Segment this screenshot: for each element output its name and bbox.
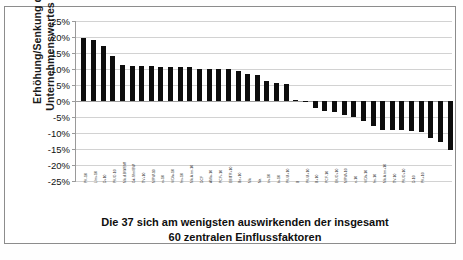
bar: [399, 101, 404, 130]
bar: [110, 56, 115, 101]
bar: [216, 69, 221, 101]
bar: [371, 101, 376, 126]
bar: [293, 100, 298, 101]
x-axis-tick-label: PK/U+10: [286, 169, 290, 183]
bar: [361, 101, 366, 121]
bar: [178, 67, 183, 101]
bar: [187, 67, 192, 101]
bar: [264, 81, 269, 101]
x-axis-tick-label: EBITR+10: [229, 166, 233, 183]
bar: [245, 74, 250, 101]
x-axis-tick-label: PCF-10: [325, 171, 329, 183]
bar: [168, 67, 173, 101]
x-axis-tick-label: tv+10: [267, 174, 271, 183]
x-axis-tick-label: Mk.A.tm+10: [383, 164, 387, 183]
x-axis-tick-label: D-10: [412, 175, 416, 183]
bar: [303, 101, 308, 102]
y-axis-tick-label: -25%: [48, 176, 70, 187]
bar: [409, 101, 414, 131]
x-axis-tick-label: Mk.d.BW/BW: [123, 162, 127, 183]
bar: [149, 66, 154, 101]
x-axis-tick-label: Na: [258, 178, 262, 183]
bar: [255, 75, 260, 101]
x-axis-tick-label: MRW+10: [344, 168, 348, 183]
y-axis-tick-label: 0%: [56, 96, 70, 107]
bar: [158, 67, 163, 101]
x-axis-tick-label: Gk-Sfm/BW: [132, 164, 136, 183]
x-axis-title-line-2: 60 zentralen Einflussfaktoren: [45, 230, 445, 245]
x-axis-tick-label: V/Dh-10: [364, 170, 368, 183]
bar: [81, 38, 86, 101]
bar: [197, 69, 202, 101]
y-axis-tick-label: 15%: [51, 48, 70, 59]
y-axis-tick-label: -20%: [48, 160, 70, 171]
y-axis-tickmark: [72, 181, 76, 182]
y-axis-tick-label: -5%: [53, 112, 70, 123]
bar: [419, 101, 424, 132]
chart-screenshot: Erhöhung/Senkung des Unternehmenswertes …: [0, 0, 463, 260]
y-axis-tick-label: -10%: [48, 128, 70, 139]
bar: [226, 69, 231, 101]
x-axis-title: Die 37 sich am wenigsten auswirkenden de…: [45, 215, 445, 245]
y-axis-tick-label: 20%: [51, 32, 70, 43]
y-axis-tick-label: 10%: [51, 64, 70, 75]
bar: [130, 66, 135, 101]
bar: [380, 101, 385, 130]
x-axis-tick-label: PK/U+10: [306, 169, 310, 183]
x-axis-tick-label: e+10: [161, 175, 165, 183]
x-axis-tick-label: L/m+10: [94, 171, 98, 183]
x-axis-tick-label: DCF: [200, 176, 204, 183]
bar: [207, 69, 212, 101]
x-axis-tick-label: EK/O+10: [335, 168, 339, 183]
x-axis-title-line-1: Die 37 sich am wenigsten auswirkenden de…: [45, 215, 445, 230]
bar: [284, 84, 289, 101]
x-axis-tick-label: AMk+10: [209, 170, 213, 183]
x-axis-tick-label: PK/O-10: [113, 169, 117, 183]
bar: [390, 101, 395, 130]
y-axis-tick-label: 25%: [51, 16, 70, 27]
x-axis-tick-label: Mk.A.tm-10: [190, 165, 194, 183]
bar: [139, 66, 144, 101]
bar: [322, 101, 327, 111]
bar: [332, 101, 337, 112]
x-axis-tick-label: TV+10: [142, 172, 146, 183]
bar: [428, 101, 433, 138]
x-axis-tick-label: B+10: [315, 175, 319, 183]
y-axis-tick-labels: 25%20%15%10%5%0%-5%-10%-15%-20%-25%: [31, 21, 73, 181]
bar: [120, 65, 125, 101]
plot-area: [75, 21, 451, 181]
x-axis-tick-label: Be+10: [238, 173, 242, 183]
bar-series: [76, 21, 452, 181]
plot-area-wrapper: 25%20%15%10%5%0%-5%-10%-15%-20%-25%: [75, 21, 451, 181]
bar: [448, 101, 453, 150]
x-axis-tick-label: MRW-10: [152, 169, 156, 183]
bar: [351, 101, 356, 117]
bar: [274, 83, 279, 101]
bar: [342, 101, 347, 115]
x-axis-tick-label: PK/O+10: [402, 168, 406, 183]
x-axis-tick-label: B: [296, 181, 300, 183]
y-axis-tick-label: -15%: [48, 144, 70, 155]
bar: [91, 40, 96, 101]
x-axis-tick-label: Mk: [248, 178, 252, 183]
bar: [101, 46, 106, 101]
x-axis-tick-label: TV-10: [393, 173, 397, 183]
x-axis-tick-label: V/Dh+10: [171, 169, 175, 183]
x-axis-tick-label: fm+10: [180, 173, 184, 183]
bar: [236, 71, 241, 101]
bar: [313, 101, 318, 108]
bar: [438, 101, 443, 142]
x-axis-tick-label: fm-10: [373, 174, 377, 183]
x-axis-tick-labels: PK-10L/m+10D+10PK/O-10Mk.d.BW/BWGk-Sfm/B…: [75, 183, 451, 213]
x-axis-tick-label: e-10: [354, 176, 358, 183]
y-axis-tick-label: 5%: [56, 80, 70, 91]
x-axis-tick-label: PK-10: [84, 173, 88, 183]
x-axis-tick-label: PK+10: [421, 172, 425, 183]
x-axis-tick-label: D+10: [103, 174, 107, 183]
x-axis-tick-label: b+10: [277, 175, 281, 183]
x-axis-tick-label: PCF+10: [219, 170, 223, 183]
chart-frame: Erhöhung/Senkung des Unternehmenswertes …: [4, 6, 456, 244]
